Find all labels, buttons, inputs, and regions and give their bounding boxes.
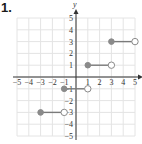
y-tick-label: 3 (69, 38, 73, 47)
x-tick-label: −3 (36, 78, 45, 87)
closed-endpoint-icon (85, 62, 91, 68)
y-tick-label: −2 (64, 97, 73, 106)
open-endpoint-icon (132, 38, 138, 44)
y-axis-arrow-icon (74, 9, 79, 14)
y-tick-label: −4 (64, 120, 73, 129)
y-axis-label: y (72, 0, 77, 9)
y-tick-label: 1 (69, 61, 73, 70)
y-tick-label: 2 (69, 49, 73, 58)
y-tick-label: 5 (69, 14, 73, 23)
x-axis-arrow-icon (138, 75, 142, 80)
x-tick-label: −5 (13, 78, 22, 87)
x-tick-label: 3 (109, 78, 113, 87)
x-tick-label: 2 (98, 78, 102, 87)
step-function-chart: y −5−4−3−2−11234554321−1−2−3−4−5 (0, 0, 142, 144)
closed-endpoint-icon (61, 86, 67, 92)
open-endpoint-icon (85, 86, 91, 92)
open-endpoint-icon (61, 109, 67, 115)
y-tick-label: 4 (69, 26, 73, 35)
x-tick-label: −2 (48, 78, 57, 87)
x-tick-label: −4 (25, 78, 34, 87)
open-endpoint-icon (108, 62, 114, 68)
closed-endpoint-icon (109, 39, 115, 45)
axes: y (13, 0, 142, 140)
closed-endpoint-icon (38, 110, 44, 116)
x-tick-label: 4 (121, 78, 125, 87)
y-tick-label: −5 (64, 132, 73, 141)
x-tick-label: 5 (133, 78, 137, 87)
